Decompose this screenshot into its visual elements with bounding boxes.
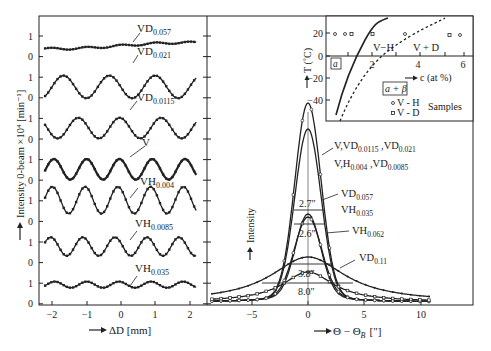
arrow-right-icon <box>101 327 107 333</box>
region-ab-label: a + β <box>385 83 407 94</box>
left-ytick-label: 1 <box>28 195 33 206</box>
left-xtick-label: −1 <box>82 309 93 320</box>
arrow-up-icon <box>247 247 253 252</box>
width-label-80: 8.0" <box>298 286 315 297</box>
right-xtick-label: 5 <box>362 309 367 320</box>
left-ytick-label: 0 <box>28 92 33 103</box>
label-vh0004: VH0.004 <box>140 175 174 190</box>
left-ytick-label: 0 <box>28 134 33 145</box>
label-vd0057: VD0.057 <box>341 188 373 202</box>
right-ylabel-text: Intensity <box>245 208 256 243</box>
inset-ytick: 20 <box>313 28 323 39</box>
curve-VD0.0115 <box>45 118 196 139</box>
label-vd011: VD0.11 <box>359 252 387 266</box>
left-xtick-label: 2 <box>188 309 193 320</box>
left-ytick-label: 1 <box>28 31 33 42</box>
label-v: V <box>142 136 150 148</box>
right-x-ticks: −5 0 5 10 <box>247 301 426 320</box>
left-xtick-label: 0 <box>119 309 124 320</box>
right-xtick-label: 0 <box>306 309 311 320</box>
left-panel: 10101010101010 −2 −1 0 1 2 ΔD [mm] Inten… <box>15 22 207 336</box>
left-x-label: ΔD [mm] <box>89 324 151 336</box>
left-ylabel-text: Intensity 0-beam ×10⁴ [min⁻¹] <box>15 90 26 218</box>
left-ytick-label: 0 <box>28 216 33 227</box>
left-curves <box>44 40 196 289</box>
curve-VH0.004 <box>45 187 196 214</box>
label-vh0062: VH0.062 <box>352 225 384 239</box>
left-xtick-label: 1 <box>153 309 158 320</box>
left-curve-labels: VD0.057 VD0.021 VD0.0115 V VH0.004 VH0.0… <box>130 22 175 286</box>
label-vd0021: VD0.021 <box>137 45 171 60</box>
region-vd-label: V + D <box>413 42 440 53</box>
label-vd00115: VD0.0115 <box>137 91 175 106</box>
inset-xlabel-text: c (at %) <box>420 72 452 84</box>
label-vd0057: VD0.057 <box>137 22 171 37</box>
rocking-curve-labels: V,VD0.0115 ,VD0.021 V,H0.004 ,VD0.0085 V… <box>322 140 416 268</box>
figure: 10101010101010 −2 −1 0 1 2 ΔD [mm] Inten… <box>0 0 491 351</box>
left-ytick-label: 1 <box>28 113 33 124</box>
left-xtick-label: −2 <box>47 309 58 320</box>
label-vh0035: VH0.035 <box>341 204 373 218</box>
width-label-26: 2.6" <box>299 228 316 239</box>
right-xtick-label: 10 <box>416 309 426 320</box>
inset-xtick: 6 <box>461 59 466 70</box>
phase-diagram-inset: 20 0 −20 −40 2 4 6 T (˚C) c (at %) <box>302 16 473 121</box>
left-x-ticks: −2 −1 0 1 2 <box>47 301 193 320</box>
left-ytick-label: 1 <box>28 278 33 289</box>
rocking-curves <box>211 103 431 303</box>
inset-ylabel-text: T (˚C) <box>302 48 314 73</box>
left-y-label: Intensity 0-beam ×10⁴ [min⁻¹] <box>15 90 26 240</box>
inset-ytick: −20 <box>307 73 323 84</box>
label-vh0035: VH0.035 <box>135 262 169 277</box>
region-vh-label: V−H <box>373 42 395 53</box>
rocking-curve <box>212 103 430 301</box>
inset-ytick: 0 <box>318 51 323 62</box>
inset-ytick: −40 <box>307 95 323 106</box>
arrow-up-icon <box>17 222 23 228</box>
left-xlabel-text: ΔD [mm] <box>109 324 151 336</box>
left-ytick-label: 0 <box>28 298 33 309</box>
right-y-label: Intensity <box>245 208 256 260</box>
width-label-38: 3.8" <box>298 268 315 279</box>
left-ytick-label: 1 <box>28 72 33 83</box>
right-xtick-label: −5 <box>247 309 258 320</box>
right-x-label: Θ − ΘB["] <box>314 325 381 340</box>
label-v-vd-group: V,VD0.0115 ,VD0.021 <box>334 140 416 154</box>
inset-xtick: 4 <box>416 59 421 70</box>
label-v-h-group: V,H0.004 ,VD0.0085 <box>334 158 409 172</box>
left-ytick-label: 1 <box>28 154 33 165</box>
width-markers: 2.7" 2.6" 3.8" 8.0" <box>262 198 353 297</box>
width-label-27: 2.7" <box>299 198 316 209</box>
left-y-ticks: 10101010101010 <box>28 31 207 310</box>
legend-title: Samples <box>428 101 462 112</box>
left-ytick-label: 0 <box>28 51 33 62</box>
left-ytick-label: 0 <box>28 175 33 186</box>
arrow-right-icon <box>326 328 332 334</box>
label-vh00085: VH0.0085 <box>135 217 173 232</box>
right-xlabel-text: Θ − ΘB["] <box>333 325 381 340</box>
region-a-label: a <box>333 59 338 69</box>
legend-vd: V - D <box>397 107 420 118</box>
left-ytick-label: 0 <box>28 257 33 268</box>
left-ytick-label: 1 <box>28 237 33 248</box>
right-y-ticks <box>207 36 211 304</box>
